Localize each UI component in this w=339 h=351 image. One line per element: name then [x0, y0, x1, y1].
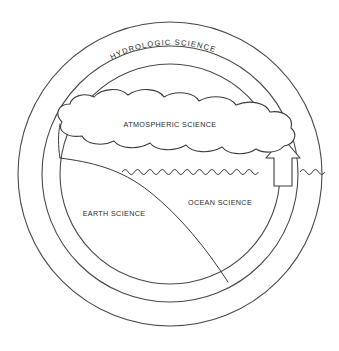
atmospheric-science-label: ATMOSPHERIC SCIENCE: [124, 120, 217, 129]
land-left-edge: [59, 124, 61, 158]
ocean-wave-line: [122, 170, 258, 175]
ocean-science-label: OCEAN SCIENCE: [188, 198, 252, 207]
land-slope: [60, 158, 228, 282]
ocean-wave-line-right: [300, 170, 325, 175]
diagram-canvas: HYDROLOGIC SCIENCE ATMOSPHERIC SCIENCE O…: [0, 0, 339, 351]
hydrologic-cycle-diagram: HYDROLOGIC SCIENCE ATMOSPHERIC SCIENCE O…: [0, 0, 339, 351]
earth-science-label: EARTH SCIENCE: [83, 209, 146, 218]
hydrologic-science-label: HYDROLOGIC SCIENCE: [109, 38, 218, 62]
